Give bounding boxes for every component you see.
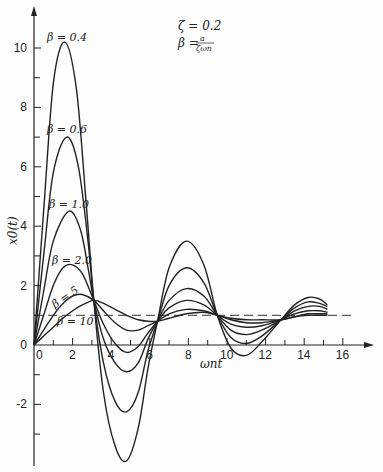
y-tick-label: -2	[16, 397, 27, 411]
annotation-beta-den: ζωn	[196, 44, 212, 53]
y-tick-label: 8	[20, 100, 27, 114]
y-tick-label: 0	[20, 338, 27, 352]
y-tick-label: 2	[20, 279, 27, 293]
axes	[34, 10, 370, 466]
parameter-annotation: ζ = 0.2 β = a ζωn	[177, 19, 221, 53]
x-tick-label: 2	[69, 348, 76, 362]
curve-0.4	[34, 42, 327, 461]
x-tick-label: 16	[336, 348, 350, 362]
annotation-beta-num: a	[200, 34, 205, 43]
y-tick-label: 10	[14, 41, 28, 55]
y-tick-label: 4	[20, 219, 27, 233]
curve-2.0	[34, 264, 327, 352]
y-axis-label: x0(t)	[6, 216, 20, 245]
x-ticks: 0246810121416	[36, 338, 349, 362]
x-axis-arrow-icon	[364, 342, 374, 348]
label-beta-2.0: β = 2.0	[51, 254, 92, 267]
curves	[34, 42, 327, 461]
x-tick-label: 12	[259, 348, 273, 362]
y-tick-label: 6	[20, 160, 27, 174]
curve-0.6	[34, 137, 327, 412]
label-beta-10: β = 10	[56, 315, 94, 328]
response-chart: 0246810121416 -20246810 β = 0.4 β = 0.6 …	[0, 0, 383, 472]
x-tick-label: 8	[185, 348, 192, 362]
label-beta-1.0: β = 1.0	[48, 198, 89, 211]
y-axis-arrow-icon	[31, 6, 37, 16]
x-axis-label: ωnt	[200, 357, 223, 371]
x-tick-label: 0	[36, 348, 43, 362]
annotation-zeta: ζ = 0.2	[178, 19, 221, 33]
x-tick-label: 14	[297, 348, 311, 362]
label-beta-0.4: β = 0.4	[46, 31, 87, 44]
label-beta-0.6: β = 0.6	[46, 123, 87, 136]
